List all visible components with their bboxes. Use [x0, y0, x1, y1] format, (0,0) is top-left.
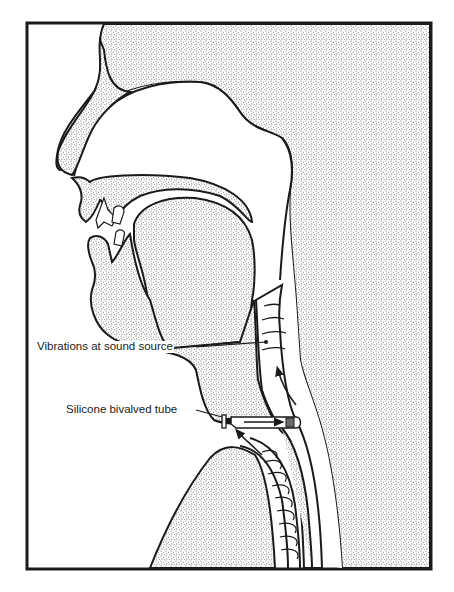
vibrations-label: Vibrations at sound source — [36, 341, 174, 353]
silicone-bivalved-tube — [222, 415, 301, 428]
anatomy-diagram — [0, 0, 454, 592]
tube-label: Silicone bivalved tube — [65, 404, 178, 416]
